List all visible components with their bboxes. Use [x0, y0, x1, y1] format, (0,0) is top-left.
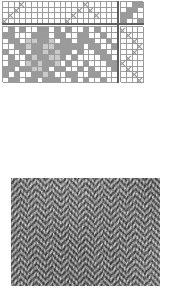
woven-fabric-photo — [11, 178, 160, 286]
threading-grid — [2, 1, 117, 23]
fabric-texture-canvas — [11, 178, 160, 286]
treadling-grid — [120, 26, 143, 82]
draft-horizontal-divider — [2, 23, 144, 25]
drawdown-grid — [2, 26, 117, 82]
weaving-draft-diagram — [0, 0, 170, 156]
draft-vertical-divider — [117, 1, 119, 83]
grid-cell — [138, 78, 144, 84]
tieup-grid — [120, 1, 143, 23]
weaving-draft-page — [0, 0, 170, 291]
